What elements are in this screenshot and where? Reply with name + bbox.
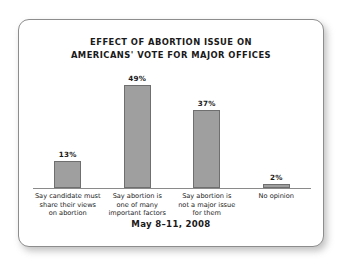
category-label-4-line-1: No opinion: [259, 192, 294, 200]
category-label-2-line-3: important factors: [109, 209, 166, 217]
x-axis-line: [33, 188, 311, 189]
chart-title: EFFECT OF ABORTION ISSUE ON AMERICANS' V…: [19, 36, 323, 61]
category-label-2: Say abortion is one of many important fa…: [103, 192, 173, 218]
chart-title-line-1: EFFECT OF ABORTION ISSUE ON: [19, 36, 323, 49]
bar-slot-3: 37%: [172, 72, 242, 188]
category-label-1-line-1: Say candidate must: [35, 192, 101, 200]
bar-slot-4: 2%: [242, 72, 312, 188]
bar-value-4: 2%: [270, 173, 283, 182]
bar-1: [54, 161, 81, 188]
category-label-3: Say abortion is not a major issue for th…: [172, 192, 242, 218]
chart-card: EFFECT OF ABORTION ISSUE ON AMERICANS' V…: [18, 19, 324, 247]
category-label-3-line-1: Say abortion is: [182, 192, 231, 200]
category-label-4: No opinion: [242, 192, 312, 218]
bar-slot-1: 13%: [33, 72, 103, 188]
category-label-1-line-3: on abortion: [49, 209, 87, 217]
chart-screenshot: EFFECT OF ABORTION ISSUE ON AMERICANS' V…: [0, 0, 343, 267]
bar-slot-2: 49%: [103, 72, 173, 188]
category-label-3-line-3: for them: [193, 209, 221, 217]
plot-area: 13% 49% 37% 2%: [33, 72, 311, 188]
category-labels: Say candidate must share their views on …: [33, 192, 311, 218]
category-label-2-line-1: Say abortion is: [113, 192, 162, 200]
bar-value-2: 49%: [128, 74, 146, 83]
category-label-1-line-2: share their views: [40, 201, 96, 209]
bar-group: 13% 49% 37% 2%: [33, 72, 311, 188]
category-label-1: Say candidate must share their views on …: [33, 192, 103, 218]
category-label-2-line-2: one of many: [117, 201, 158, 209]
bar-3: [193, 110, 220, 188]
bar-2: [124, 85, 151, 188]
category-label-3-line-2: not a major issue: [178, 201, 235, 209]
bar-value-1: 13%: [59, 150, 77, 159]
bar-value-3: 37%: [198, 99, 216, 108]
chart-footer-date: May 8–11, 2008: [19, 219, 323, 229]
chart-title-line-2: AMERICANS' VOTE FOR MAJOR OFFICES: [19, 49, 323, 62]
